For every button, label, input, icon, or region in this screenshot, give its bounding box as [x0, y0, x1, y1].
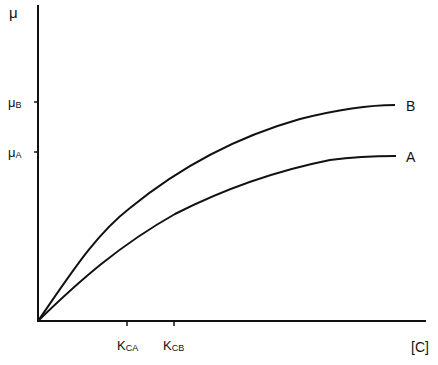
- curve-b: [38, 105, 395, 321]
- mu-a-symbol: μ: [8, 145, 16, 160]
- chart-canvas: [0, 0, 438, 365]
- mu-b-label: μB: [8, 96, 22, 110]
- mu-a-label: μA: [8, 146, 22, 160]
- y-axis-label: μ: [9, 5, 18, 20]
- curve-a-label: A: [406, 150, 415, 164]
- mu-b-subscript: B: [16, 100, 22, 110]
- kca-symbol: K: [117, 338, 126, 353]
- kca-subscript: CA: [126, 343, 139, 353]
- mu-a-subscript: A: [16, 150, 22, 160]
- x-axis-label: [C]: [411, 340, 429, 354]
- kca-label: KCA: [117, 339, 138, 353]
- kcb-symbol: K: [163, 338, 172, 353]
- curve-a: [38, 156, 396, 321]
- kcb-subscript: CB: [172, 343, 185, 353]
- curve-b-label: B: [406, 99, 415, 113]
- mu-b-symbol: μ: [8, 95, 16, 110]
- kcb-label: KCB: [163, 339, 184, 353]
